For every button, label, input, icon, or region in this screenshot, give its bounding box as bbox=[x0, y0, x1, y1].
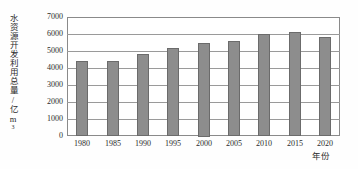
y-axis-tick-label: 5000 bbox=[31, 47, 63, 55]
y-axis-tick-label: 7000 bbox=[31, 13, 63, 21]
bar bbox=[228, 41, 240, 136]
x-axis-tick-label: 2020 bbox=[308, 140, 342, 148]
y-axis-tick-label: 4000 bbox=[31, 64, 63, 72]
bar bbox=[319, 37, 331, 136]
x-axis-tick-label: 1995 bbox=[156, 140, 190, 148]
bar bbox=[167, 48, 179, 136]
y-axis-tick-label: 0 bbox=[31, 132, 63, 140]
y-axis-unit-superscript: 3 bbox=[8, 124, 18, 130]
bar bbox=[76, 61, 88, 136]
x-axis-title: 年份 bbox=[312, 152, 330, 161]
bar bbox=[137, 54, 149, 136]
y-axis-tick-label: 3000 bbox=[31, 81, 63, 89]
y-axis-title: 水资源开发利用总量/亿m3 bbox=[5, 8, 21, 136]
x-axis-tick-label: 2015 bbox=[278, 140, 312, 148]
x-axis-tick-label: 2010 bbox=[247, 140, 281, 148]
y-axis-title-text: 水资源开发利用总量/亿m bbox=[8, 14, 18, 124]
bar bbox=[289, 32, 301, 136]
y-axis-tick-label: 6000 bbox=[31, 30, 63, 38]
x-axis-tick-label: 1980 bbox=[65, 140, 99, 148]
bar bbox=[107, 61, 119, 136]
bar bbox=[198, 43, 210, 137]
x-axis-tick-label: 2000 bbox=[187, 140, 221, 148]
bar bbox=[258, 34, 270, 136]
y-axis-tick-label: 1000 bbox=[31, 115, 63, 123]
x-axis-tick-label: 1990 bbox=[126, 140, 160, 148]
bar-chart-figure: 水资源开发利用总量/亿m3 01000200030004000500060007… bbox=[0, 0, 358, 169]
y-axis-tick-label: 2000 bbox=[31, 98, 63, 106]
x-axis-tick-label: 2005 bbox=[217, 140, 251, 148]
x-axis-tick-label: 1985 bbox=[96, 140, 130, 148]
